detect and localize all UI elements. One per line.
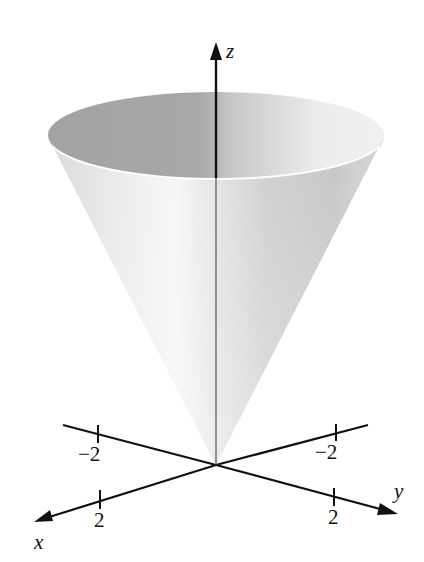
cone-diagram: z x y −2 2 −2 2 bbox=[0, 0, 424, 562]
cone-figure: z x y −2 2 −2 2 bbox=[0, 0, 424, 562]
y-tick-label-2: 2 bbox=[328, 505, 339, 529]
x-tick-label-2: 2 bbox=[94, 508, 105, 532]
x-axis-positive bbox=[46, 465, 216, 518]
x-tick-label-neg2: −2 bbox=[78, 442, 100, 466]
x-axis-label: x bbox=[33, 530, 44, 554]
y-axis-label: y bbox=[392, 479, 404, 503]
z-axis-arrowhead bbox=[210, 42, 222, 60]
x-axis-arrowhead bbox=[34, 510, 53, 522]
y-axis-arrowhead bbox=[377, 503, 398, 515]
y-axis-positive bbox=[216, 465, 384, 510]
axes-front: x y bbox=[33, 465, 404, 554]
y-tick-label-neg2: −2 bbox=[315, 440, 337, 464]
z-axis-label: z bbox=[225, 39, 234, 63]
y-axis-negative bbox=[216, 425, 368, 465]
